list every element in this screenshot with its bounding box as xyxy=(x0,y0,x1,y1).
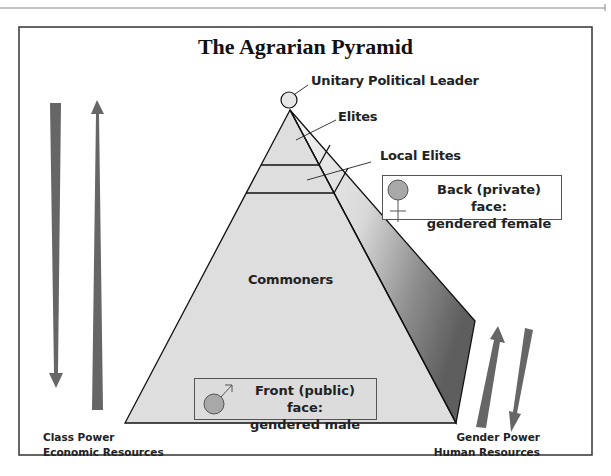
apex-leader-circle xyxy=(281,92,297,108)
female-symbol-icon xyxy=(385,178,415,228)
legend-back-line1: Back (private) face: xyxy=(419,181,559,215)
label-elites: Elites xyxy=(338,109,377,124)
axis-right-line1: Gender Power xyxy=(430,430,540,445)
label-local-elites: Local Elites xyxy=(380,148,461,163)
legend-front-line1: Front (public) face: xyxy=(235,382,375,416)
legend-back-line2: gendered female xyxy=(419,215,559,232)
axis-left-line1: Class Power xyxy=(43,430,164,445)
axis-left-line2: Economic Resources xyxy=(43,445,164,460)
label-unitary-political-leader: Unitary Political Leader xyxy=(311,73,479,88)
page-top-rule xyxy=(0,4,605,11)
axis-left-label: Class Power Economic Resources xyxy=(43,430,164,460)
legend-front-face: Front (public) face: gendered male xyxy=(194,378,377,420)
diagram-title: The Agrarian Pyramid xyxy=(0,34,611,60)
axis-right-label: Gender Power Human Resources xyxy=(430,430,540,460)
label-commoners: Commoners xyxy=(248,272,333,287)
male-symbol-icon xyxy=(199,380,239,420)
legend-front-text: Front (public) face: gendered male xyxy=(235,382,375,433)
legend-back-text: Back (private) face: gendered female xyxy=(419,181,559,232)
axis-right-line2: Human Resources xyxy=(430,445,540,460)
legend-back-face: Back (private) face: gendered female xyxy=(382,175,562,220)
legend-front-line2: gendered male xyxy=(235,416,375,433)
